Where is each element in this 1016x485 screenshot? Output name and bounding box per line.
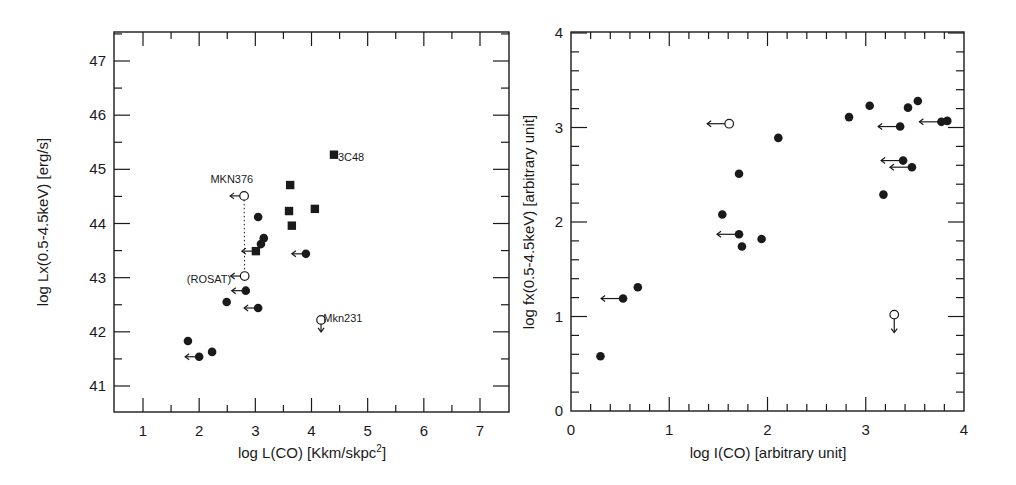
- data-point: [254, 304, 263, 313]
- x-tick-label: 4: [960, 421, 968, 438]
- right-scatter-plot: 0123401234log I(CO) [arbitrary unit]log …: [520, 24, 968, 461]
- data-point: [634, 283, 643, 292]
- data-point: [718, 210, 727, 219]
- figure: 123456741424344454647log L(CO) [Kkm/skpc…: [0, 0, 1016, 485]
- y-tick-label: 47: [89, 52, 106, 69]
- data-point: [254, 213, 263, 222]
- data-point: [619, 294, 628, 303]
- x-tick-label: 3: [251, 422, 259, 439]
- point-annotation: MKN376: [210, 173, 253, 185]
- data-point: [596, 352, 605, 361]
- y-tick-label: 43: [89, 269, 106, 286]
- x-axis-label: log L(CO) [Kkm/skpc2]: [238, 443, 386, 461]
- plot-frame: [571, 32, 964, 411]
- data-point-square: [286, 181, 294, 189]
- y-tick-label: 42: [89, 323, 106, 340]
- x-tick-label: 2: [195, 422, 203, 439]
- x-tick-label: 5: [363, 422, 371, 439]
- data-point-open: [240, 272, 249, 281]
- data-point: [899, 156, 908, 165]
- dotted-connector: [244, 196, 245, 276]
- data-point: [908, 163, 917, 172]
- data-point: [845, 113, 854, 122]
- x-tick-label: 1: [665, 421, 673, 438]
- data-point: [208, 348, 217, 357]
- y-tick-label: 4: [555, 24, 563, 41]
- data-point: [943, 117, 952, 126]
- data-point: [774, 134, 783, 143]
- data-point: [738, 242, 747, 251]
- data-point: [735, 230, 744, 239]
- data-point-open: [890, 310, 899, 319]
- data-point-square: [252, 247, 260, 255]
- x-tick-label: 0: [567, 421, 575, 438]
- x-tick-label: 6: [420, 422, 428, 439]
- y-tick-label: 45: [89, 160, 106, 177]
- x-tick-label: 3: [862, 421, 870, 438]
- data-point-square: [285, 207, 293, 215]
- x-tick-label: 1: [139, 422, 147, 439]
- y-tick-label: 46: [89, 106, 106, 123]
- data-point-square: [311, 205, 319, 213]
- y-axis-label: log Lx(0.5-4.5keV) [erg/s]: [34, 138, 51, 306]
- data-point-square: [288, 221, 296, 229]
- plot-frame: [114, 32, 509, 412]
- data-point: [904, 103, 913, 112]
- data-point: [914, 97, 923, 106]
- y-tick-label: 44: [89, 215, 106, 232]
- data-point-open: [240, 192, 249, 201]
- data-point: [241, 286, 250, 295]
- data-point: [896, 122, 905, 131]
- data-point: [184, 337, 193, 346]
- data-point: [735, 170, 744, 179]
- x-tick-label: 7: [476, 422, 484, 439]
- y-tick-label: 3: [555, 119, 563, 136]
- data-point: [222, 298, 231, 307]
- y-tick-label: 0: [555, 402, 563, 419]
- x-axis-label: log I(CO) [arbitrary unit]: [690, 444, 847, 461]
- x-tick-label: 2: [763, 421, 771, 438]
- data-point: [195, 352, 204, 361]
- y-tick-label: 41: [89, 377, 106, 394]
- x-tick-label: 4: [307, 422, 315, 439]
- point-annotation: (ROSAT): [187, 273, 231, 285]
- chart-canvas: 123456741424344454647log L(CO) [Kkm/skpc…: [0, 0, 1016, 485]
- y-tick-label: 2: [555, 213, 563, 230]
- data-point: [757, 235, 766, 244]
- y-tick-label: 1: [555, 308, 563, 325]
- data-point: [879, 190, 888, 199]
- point-annotation: Mkn231: [323, 312, 362, 324]
- data-point-open: [725, 119, 734, 128]
- data-point: [865, 101, 874, 110]
- y-axis-label: log fx(0.5-4.5keV) [arbitrary unit]: [520, 115, 537, 329]
- data-point: [302, 250, 311, 259]
- left-scatter-plot: 123456741424344454647log L(CO) [Kkm/skpc…: [34, 32, 509, 461]
- point-annotation: 3C48: [338, 151, 364, 163]
